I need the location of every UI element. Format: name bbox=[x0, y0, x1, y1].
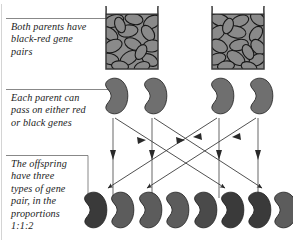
offspring-bean-4 bbox=[167, 192, 189, 228]
inheritance-arrows bbox=[108, 118, 262, 198]
parent-jars-row bbox=[100, 6, 268, 74]
gamete-bean-4 bbox=[251, 78, 273, 114]
offspring-bean-5 bbox=[195, 192, 217, 228]
offspring-bean-2 bbox=[112, 192, 134, 228]
caption-offspring: The offspring have three types of gene p… bbox=[11, 158, 91, 232]
parent-jar-left bbox=[100, 6, 163, 74]
jar-beans-right bbox=[206, 9, 268, 74]
offspring-bean-8 bbox=[275, 192, 293, 228]
diagonal-arrow-3 bbox=[108, 118, 217, 188]
gamete-bean-2 bbox=[145, 78, 167, 114]
genetics-punnett-diagram: Both parents have black-red gene pairs E… bbox=[0, 0, 293, 244]
caption-gametes: Each parent can pass on either red or bl… bbox=[11, 92, 107, 129]
offspring-bean-7 bbox=[249, 192, 271, 228]
offspring-bean-6 bbox=[222, 192, 244, 228]
gamete-bean-3 bbox=[212, 78, 234, 114]
diagonal-arrow-4 bbox=[147, 118, 256, 188]
diagonal-arrows bbox=[108, 118, 262, 188]
caption-parents: Both parents have black-red gene pairs bbox=[11, 21, 103, 58]
parent-jar-right bbox=[206, 6, 268, 74]
vertical-arrows bbox=[113, 118, 258, 198]
gamete-beans-row bbox=[106, 78, 273, 114]
offspring-bean-3 bbox=[140, 192, 162, 228]
vertical-arrowheads bbox=[110, 150, 261, 160]
offspring-beans-row bbox=[85, 192, 293, 228]
gamete-bean-1 bbox=[106, 78, 128, 114]
